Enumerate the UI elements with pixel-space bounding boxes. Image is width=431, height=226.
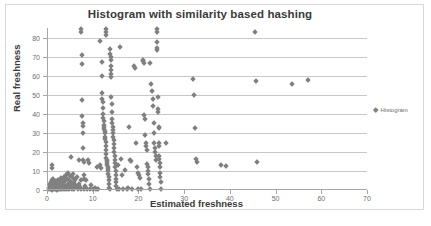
gridline xyxy=(47,57,367,58)
y-tick-label: 50 xyxy=(32,91,40,98)
chart-legend: Histogram xyxy=(374,107,408,113)
plot-area: 01020304050607080 010203040506070 xyxy=(47,28,367,190)
x-tick-mark xyxy=(367,190,368,194)
gridline xyxy=(47,76,367,77)
gridline xyxy=(47,171,367,172)
x-tick-label: 40 xyxy=(226,195,234,202)
y-tick-label: 30 xyxy=(32,129,40,136)
y-tick-label: 60 xyxy=(32,72,40,79)
y-axis-line xyxy=(47,28,48,190)
gridline xyxy=(47,114,367,115)
y-tick-label: 80 xyxy=(32,34,40,41)
y-tick-label: 0 xyxy=(36,187,40,194)
gridline xyxy=(47,95,367,96)
x-tick-mark xyxy=(321,190,322,194)
x-tick-mark xyxy=(184,190,185,194)
x-tick-label: 10 xyxy=(89,195,97,202)
y-tick-label: 10 xyxy=(32,167,40,174)
gridline xyxy=(47,38,367,39)
x-tick-label: 30 xyxy=(180,195,188,202)
chart-container: Histogram with similarity based hashing … xyxy=(0,0,431,226)
chart-title: Histogram with similarity based hashing xyxy=(40,8,360,20)
x-tick-label: 50 xyxy=(272,195,280,202)
x-tick-label: 20 xyxy=(135,195,143,202)
gridline xyxy=(47,152,367,153)
y-tick-label: 40 xyxy=(32,110,40,117)
x-tick-label: 0 xyxy=(45,195,49,202)
x-tick-label: 70 xyxy=(363,195,371,202)
legend-label-histogram: Histogram xyxy=(381,107,408,113)
y-tick-label: 20 xyxy=(32,148,40,155)
x-tick-label: 60 xyxy=(317,195,325,202)
x-tick-mark xyxy=(276,190,277,194)
y-tick-label: 70 xyxy=(32,53,40,60)
legend-diamond-icon xyxy=(373,108,378,113)
x-tick-mark xyxy=(230,190,231,194)
x-axis-line xyxy=(47,189,367,190)
y-axis-title: Real freshness xyxy=(11,44,22,112)
gridline xyxy=(47,133,367,134)
